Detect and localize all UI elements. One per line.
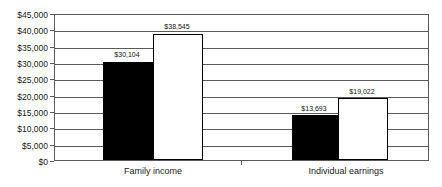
- bar-family-income-series-1[interactable]: [103, 62, 153, 160]
- bar-value-label-individual-earnings-series-1: $13,693: [264, 105, 364, 112]
- y-tick-label-25000: $25,000: [0, 76, 48, 85]
- bar-value-label-family-income-series-2: $38,545: [127, 23, 227, 30]
- y-tick-mark-0: [50, 161, 54, 162]
- x-category-label-family-income: Family income: [103, 167, 203, 176]
- gridline-35000: [55, 48, 428, 49]
- y-tick-label-0: $0: [0, 158, 48, 167]
- bar-value-label-individual-earnings-series-2: $19,022: [312, 88, 412, 95]
- y-tick-label-5000: $5,000: [0, 142, 48, 151]
- x-tick-mark-midpoint: [241, 161, 242, 165]
- y-tick-label-45000: $45,000: [0, 11, 48, 20]
- bar-individual-earnings-series-1[interactable]: [292, 115, 338, 160]
- y-tick-label-10000: $10,000: [0, 125, 48, 134]
- y-tick-label-40000: $40,000: [0, 27, 48, 36]
- y-tick-label-30000: $30,000: [0, 60, 48, 69]
- y-tick-label-15000: $15,000: [0, 109, 48, 118]
- y-tick-label-20000: $20,000: [0, 93, 48, 102]
- y-tick-label-35000: $35,000: [0, 44, 48, 53]
- bar-value-label-family-income-series-1: $30,104: [77, 51, 177, 58]
- gridline-40000: [55, 31, 428, 32]
- bar-chart: $45,000 $40,000 $35,000 $30,000 $25,000 …: [0, 0, 442, 187]
- x-category-label-individual-earnings: Individual earnings: [291, 167, 401, 176]
